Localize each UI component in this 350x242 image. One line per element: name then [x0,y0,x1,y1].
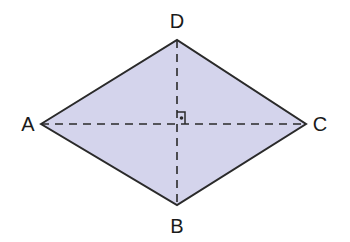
rhombus-diagram: D A C B [0,0,350,242]
rhombus-shape [41,40,306,205]
vertex-label-c: C [313,113,327,135]
vertex-label-a: A [21,113,35,135]
vertex-label-b: B [170,215,183,237]
vertex-label-d: D [170,10,184,32]
right-angle-dot [180,116,184,120]
